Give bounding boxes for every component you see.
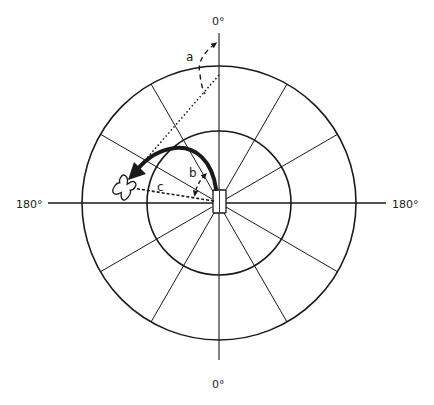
label-top-0deg: 0° [212,15,225,28]
spoke-30 [224,84,287,193]
rotation-arrow [137,148,216,189]
center-block [213,190,226,213]
polar-diagram: 0° 0° 180° 180° a b c [0,0,434,405]
angle-a-arc [199,44,215,94]
angle-label-a: a [186,50,193,64]
label-left-180deg: 180° [16,198,43,211]
spoke-150 [224,213,287,322]
spoke-60 [226,134,338,199]
angle-label-c: c [157,180,164,194]
angle-label-b: b [189,166,197,180]
label-bottom-0deg: 0° [212,378,225,391]
spoke-240 [100,207,212,272]
spoke-210 [151,213,214,322]
spoke-330 [151,84,214,193]
dashed-direction-line [132,188,214,201]
label-right-180deg: 180° [392,198,419,211]
spoke-120 [226,207,338,272]
